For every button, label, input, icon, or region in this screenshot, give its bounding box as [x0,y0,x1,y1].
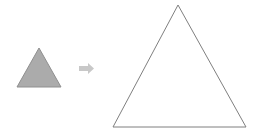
diagram-canvas [0,0,258,140]
diagram-svg [0,0,258,140]
